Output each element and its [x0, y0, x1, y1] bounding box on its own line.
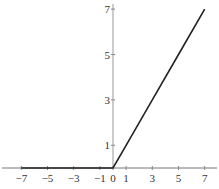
x-tick-label: 7: [202, 172, 208, 184]
x-tick-label: 3: [150, 172, 156, 184]
y-tick-label: 7: [105, 3, 111, 15]
relu-chart: −7−5−3−101357 1357: [0, 0, 219, 189]
x-tick-label: 5: [176, 172, 182, 184]
x-tick-label: 0: [110, 172, 116, 184]
x-tick-label: 1: [123, 172, 129, 184]
x-tick-label: −7: [15, 172, 27, 184]
y-tick-label: 3: [105, 94, 111, 106]
y-tick-label: 1: [105, 139, 111, 151]
x-tick-label: −1: [94, 172, 106, 184]
x-tick-label: −3: [68, 172, 80, 184]
y-tick-labels: 1357: [105, 3, 111, 151]
x-tick-label: −5: [42, 172, 54, 184]
y-tick-label: 5: [105, 49, 111, 61]
x-tick-labels: −7−5−3−101357: [15, 172, 208, 184]
